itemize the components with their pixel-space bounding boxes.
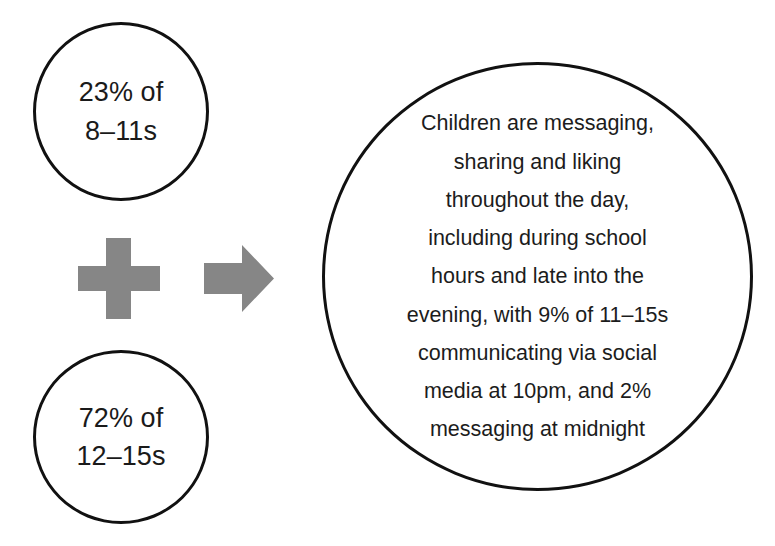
stat-percent-line: 23% of (79, 73, 164, 111)
summary-line: media at 10pm, and 2% (383, 372, 693, 410)
summary-line: Children are messaging, (383, 104, 693, 142)
summary-line: including during school (383, 219, 693, 257)
summary-text: Children are messaging, sharing and liki… (383, 104, 693, 448)
summary-line: communicating via social (383, 334, 693, 372)
summary-line: throughout the day, (383, 181, 693, 219)
arrow-right-icon (204, 244, 274, 313)
plus-icon (78, 238, 160, 319)
summary-line: evening, with 9% of 11–15s (383, 296, 693, 334)
stat-age-line: 8–11s (85, 112, 157, 150)
summary-line: messaging at midnight (383, 410, 693, 448)
infographic-canvas: 23% of 8–11s 72% of 12–15s Children are … (0, 0, 775, 546)
summary-line: sharing and liking (383, 143, 693, 181)
plus-icon-vertical-bar (106, 238, 131, 319)
stat-percent-line: 72% of (79, 399, 164, 437)
summary-line: hours and late into the (383, 257, 693, 295)
summary-circle: Children are messaging, sharing and liki… (322, 62, 753, 491)
stat-circle-12-15: 72% of 12–15s (33, 350, 209, 524)
stat-age-line: 12–15s (76, 437, 165, 475)
stat-circle-8-11: 23% of 8–11s (33, 22, 209, 201)
